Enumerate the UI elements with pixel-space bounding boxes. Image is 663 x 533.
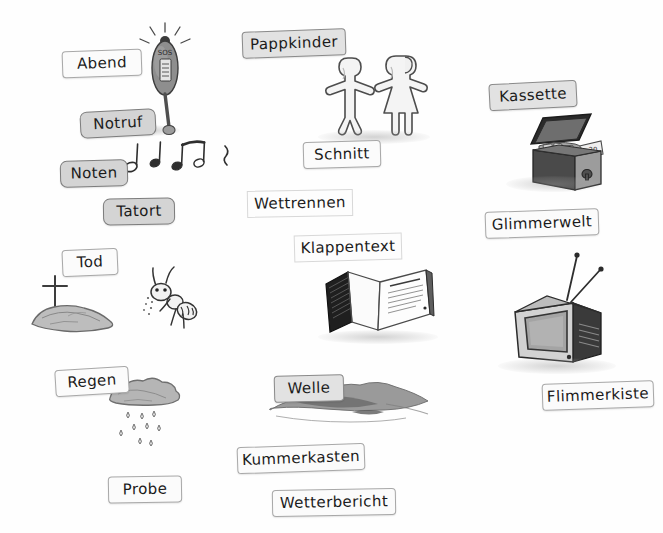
word-card-glimmerwelt[interactable]: Glimmerwelt bbox=[485, 208, 600, 239]
word-card-label: Flimmerkiste bbox=[547, 384, 650, 406]
word-card-tatort[interactable]: Tatort bbox=[103, 197, 175, 225]
word-card-kassette[interactable]: Kassette bbox=[488, 80, 577, 112]
word-card-tod[interactable]: Tod bbox=[61, 248, 118, 277]
word-card-label: Glimmerwelt bbox=[491, 212, 592, 233]
word-card-label: Noten bbox=[70, 163, 117, 182]
word-card-wetterbericht[interactable]: Wetterbericht bbox=[272, 488, 396, 517]
word-card-label: Schnitt bbox=[314, 144, 370, 163]
word-card-flimmerkiste[interactable]: Flimmerkiste bbox=[542, 380, 655, 411]
word-card-klappentext[interactable]: Klappentext bbox=[294, 233, 403, 263]
word-card-label: Regen bbox=[67, 371, 117, 392]
word-card-label: Wettrennen bbox=[254, 193, 346, 213]
vintage-television-illustration bbox=[505, 250, 619, 368]
grave-with-cross-illustration bbox=[28, 272, 130, 336]
open-book-illustration bbox=[322, 260, 440, 344]
word-card-label: Abend bbox=[77, 53, 128, 73]
word-card-label: Tod bbox=[76, 252, 103, 271]
word-card-notruf[interactable]: Notruf bbox=[79, 108, 156, 139]
word-card-regen[interactable]: Regen bbox=[54, 366, 130, 397]
word-card-wettrennen[interactable]: Wettrennen bbox=[247, 189, 353, 218]
word-card-label: Pappkinder bbox=[250, 32, 338, 53]
word-card-abend[interactable]: Abend bbox=[62, 49, 143, 79]
word-card-probe[interactable]: Probe bbox=[108, 475, 182, 503]
word-card-label: Notruf bbox=[93, 113, 144, 134]
word-card-label: Tatort bbox=[116, 202, 162, 221]
beacon-sos-text: SOS bbox=[158, 49, 173, 57]
worksheet-canvas: SOS bbox=[0, 0, 663, 533]
word-card-label: Klappentext bbox=[300, 237, 395, 257]
open-money-box-illustration: 20 bbox=[517, 110, 611, 200]
word-card-label: Welle bbox=[287, 378, 330, 397]
word-card-pappkinder[interactable]: Pappkinder bbox=[242, 28, 347, 59]
word-card-label: Wetterbericht bbox=[280, 492, 389, 512]
ant-illustration bbox=[140, 266, 198, 336]
word-card-kummerkasten[interactable]: Kummerkasten bbox=[237, 443, 366, 474]
word-card-label: Probe bbox=[123, 480, 168, 499]
word-card-label: Kassette bbox=[499, 84, 568, 106]
word-card-welle[interactable]: Welle bbox=[274, 374, 345, 403]
word-card-label: Kummerkasten bbox=[242, 447, 361, 469]
paper-cutout-children-illustration bbox=[318, 48, 430, 142]
word-card-noten[interactable]: Noten bbox=[60, 159, 129, 188]
music-notes-illustration bbox=[124, 136, 236, 182]
word-card-schnitt[interactable]: Schnitt bbox=[303, 140, 382, 169]
